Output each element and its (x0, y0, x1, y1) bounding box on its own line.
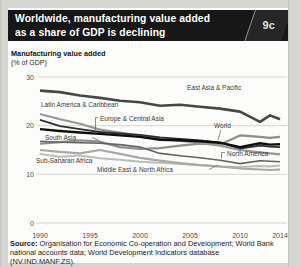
xtick-label-1995: 1995 (82, 232, 98, 239)
ytick-label-20: 20 (26, 122, 34, 129)
ytick-label-0: 0 (30, 220, 34, 227)
xtick-label-2014: 2014 (272, 232, 288, 239)
label-middle-east-north-africa: Middle East & North Africa (97, 166, 173, 173)
xtick-label-1990: 1990 (32, 232, 48, 239)
pointer-north-america (222, 153, 226, 159)
ytick-label-30: 30 (26, 74, 34, 81)
xtick-label-2010: 2010 (232, 232, 248, 239)
label-sub-saharan-africa: Sub-Saharan Africa (36, 157, 93, 164)
xtick-label-2005: 2005 (182, 232, 198, 239)
label-world: World (214, 122, 231, 129)
xtick-label-2000: 2000 (132, 232, 148, 239)
source-label: Source: (10, 239, 38, 248)
page: Worldwide, manufacturing value added as … (0, 0, 301, 267)
label-south-asia: South Asia (45, 134, 76, 141)
pointer-south-asia (92, 138, 99, 141)
label-europe-central-asia: Europe & Central Asia (100, 115, 164, 123)
pointer-world (218, 130, 221, 140)
label-latin-america-caribbean: Latin America & Caribbean (41, 101, 119, 108)
source-text: Organisation for Economic Co-operation a… (10, 239, 274, 266)
label-east-asia-pacific: East Asia & Pacific (187, 84, 242, 91)
label-north-america: North America (227, 150, 269, 157)
source-note: Source: Organisation for Economic Co-ope… (10, 239, 284, 267)
ytick-label-10: 10 (26, 171, 34, 178)
line-chart: 3020100199019952000200520102014 East Asi… (0, 0, 301, 267)
